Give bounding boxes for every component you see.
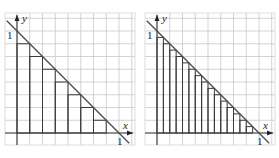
rectangles [17,44,106,133]
x-axis-label: x [262,119,268,131]
grid-frame [145,13,275,145]
riemann-rectangle [68,95,81,133]
panel-left: yx11 [5,12,135,147]
y-one-label: 1 [7,29,13,41]
y-axis-label: y [21,12,27,24]
x-one-label: 1 [257,135,263,147]
grid [145,13,275,145]
y-axis-label: y [161,12,167,24]
riemann-rectangle [157,37,163,133]
riemann-rectangle [94,120,107,133]
y-one-label: 1 [147,29,153,41]
riemann-sum-diagrams: yx11yx11 [0,0,279,158]
riemann-rectangle [189,69,195,133]
grid [5,13,135,145]
riemann-rectangle [163,44,169,133]
x-one-label: 1 [117,135,123,147]
riemann-rectangle [234,114,240,133]
grid-frame [5,13,135,145]
riemann-rectangle [195,76,201,133]
riemann-rectangle [240,120,246,133]
riemann-rectangle [183,63,189,133]
rectangles [157,37,253,133]
riemann-rectangle [246,127,252,133]
riemann-rectangle [17,44,30,133]
x-axis-label: x [122,119,128,131]
riemann-rectangle [221,101,227,133]
panel-right: yx11 [145,12,275,147]
riemann-rectangle [214,95,220,133]
riemann-rectangle [43,69,56,133]
